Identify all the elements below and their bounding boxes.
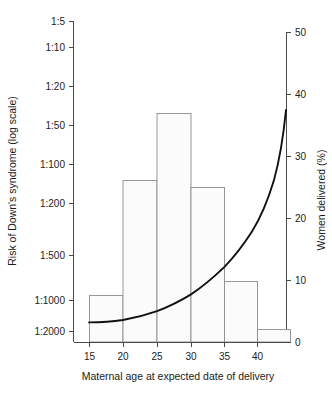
right-tick-label-5: 50 <box>295 27 307 38</box>
left-tick-label-0: 1:5 <box>51 16 65 27</box>
right-axis-tick-labels: 0 10 20 30 40 50 <box>295 27 307 348</box>
x-axis: 15 20 25 30 35 40 Maternal age at expect… <box>74 343 292 383</box>
bar-25-30 <box>157 114 191 343</box>
left-tick-label-4: 1:100 <box>40 159 65 170</box>
right-axis: 0 10 20 30 40 50 Women delivered (%) <box>287 27 328 348</box>
x-axis-tick-labels: 15 20 25 30 35 40 <box>84 351 264 362</box>
right-tick-label-0: 0 <box>295 337 301 348</box>
x-tick-label-1: 20 <box>117 351 129 362</box>
histogram-bars <box>90 114 291 343</box>
x-axis-title: Maternal age at expected date of deliver… <box>82 370 275 382</box>
left-axis-ticks <box>69 22 74 332</box>
right-tick-label-1: 10 <box>295 275 307 286</box>
right-axis-ticks <box>287 33 292 343</box>
bar-20-25 <box>123 181 157 343</box>
x-tick-label-3: 30 <box>185 351 197 362</box>
downs-syndrome-risk-figure: 1:5 1:10 1:20 1:50 1:100 1:200 1:500 1:1… <box>0 0 332 398</box>
left-tick-label-8: 1:2000 <box>34 326 65 337</box>
right-tick-label-3: 30 <box>295 151 307 162</box>
bar-35-40 <box>225 282 258 343</box>
left-tick-label-7: 1:1000 <box>34 295 65 306</box>
right-axis-title: Women delivered (%) <box>315 150 327 251</box>
left-axis-title: Risk of Down's syndrome (log scale) <box>6 96 18 265</box>
x-tick-label-0: 15 <box>84 351 96 362</box>
x-axis-ticks <box>90 343 258 348</box>
bar-40-45 <box>258 330 291 343</box>
chart-canvas: 1:5 1:10 1:20 1:50 1:100 1:200 1:500 1:1… <box>0 0 332 398</box>
bar-15-20 <box>90 296 124 343</box>
bar-30-35 <box>191 188 225 343</box>
left-tick-label-2: 1:20 <box>46 81 66 92</box>
left-tick-label-1: 1:10 <box>46 42 66 53</box>
left-tick-label-6: 1:500 <box>40 250 65 261</box>
right-tick-label-2: 20 <box>295 213 307 224</box>
left-tick-label-3: 1:50 <box>46 120 66 131</box>
left-axis: 1:5 1:10 1:20 1:50 1:100 1:200 1:500 1:1… <box>6 16 74 342</box>
right-tick-label-4: 40 <box>295 89 307 100</box>
left-tick-label-5: 1:200 <box>40 198 65 209</box>
x-tick-label-2: 25 <box>151 351 163 362</box>
x-tick-label-4: 35 <box>219 351 231 362</box>
x-tick-label-5: 40 <box>252 351 264 362</box>
left-axis-tick-labels: 1:5 1:10 1:20 1:50 1:100 1:200 1:500 1:1… <box>34 16 65 337</box>
